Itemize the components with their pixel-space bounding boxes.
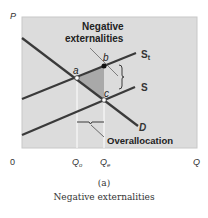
point-c-label: c: [104, 88, 109, 99]
point-a-marker: [75, 76, 80, 81]
panel-caption-letter: (a): [0, 178, 208, 188]
x-axis-label: Q: [193, 157, 200, 167]
externalities-label-line2: externalities: [65, 33, 124, 44]
qo-tick-label: Qo: [72, 157, 83, 168]
point-b-marker: [102, 64, 107, 69]
y-axis-label: P: [10, 11, 16, 21]
externalities-label-line1: Negative: [82, 21, 124, 32]
qe-tick-label: Qe: [100, 157, 111, 168]
point-b-label: b: [103, 52, 109, 63]
overallocation-label: Overallocation: [107, 135, 173, 146]
supply-label: S: [141, 82, 148, 93]
origin-label: 0: [10, 157, 15, 167]
demand-label: D: [139, 122, 146, 133]
panel-caption-title: Negative externalities: [0, 192, 208, 202]
point-a-label: a: [73, 65, 79, 76]
